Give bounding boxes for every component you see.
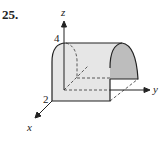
x-axis	[38, 101, 52, 115]
z-axis-arrow	[62, 21, 67, 27]
surface-diagram	[0, 0, 163, 142]
y-axis-arrow	[144, 88, 150, 93]
